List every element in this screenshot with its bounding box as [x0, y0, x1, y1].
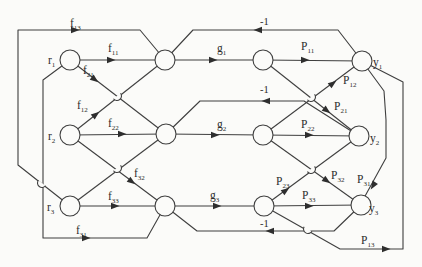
label-f22: f22	[108, 117, 119, 132]
arrowhead-g1	[209, 57, 218, 63]
arrowhead-p33	[305, 203, 314, 209]
label-p13: P13	[361, 234, 375, 249]
arrowhead-g2	[211, 132, 220, 138]
arrowhead-feedback-2	[262, 98, 271, 104]
arrowhead-feedback-1	[254, 27, 263, 33]
label-y1: y1	[373, 56, 383, 71]
label-f32: f32	[134, 167, 145, 182]
node-t1	[253, 50, 273, 70]
node-y1	[352, 51, 372, 71]
label-minus1-top: -1	[260, 16, 269, 27]
label-p32: P32	[331, 169, 345, 184]
label-y2: y2	[370, 132, 380, 147]
label-p31: P31	[357, 173, 371, 188]
node-y2	[349, 126, 369, 146]
label-f11: f11	[108, 42, 119, 57]
label-p23: P23	[276, 175, 290, 190]
label-p12: P12	[343, 74, 357, 89]
label-r1: r1	[48, 54, 56, 69]
label-f33: f33	[108, 190, 119, 205]
signal-flow-graph-figure: r1 r2 r3 y1 y2 y3 f13 f11 f21 f12 f22 f3…	[0, 0, 422, 267]
nodes	[60, 50, 372, 216]
label-f31: f31	[76, 224, 87, 239]
arrowhead-p22	[305, 132, 314, 138]
label-y3: y3	[369, 202, 379, 217]
node-t3	[254, 196, 274, 216]
label-p22: P22	[301, 118, 315, 133]
edge-p11	[263, 60, 362, 61]
node-t2	[253, 125, 273, 145]
hop-p13-over-feedback3	[302, 227, 312, 235]
label-p33: P33	[302, 189, 316, 204]
hop-f13-over-f31	[36, 180, 46, 189]
label-minus1-bot: -1	[260, 218, 269, 229]
label-p11: P11	[301, 40, 315, 55]
node-r3	[60, 196, 80, 216]
node-y3	[351, 195, 371, 215]
label-minus1-mid: -1	[260, 84, 269, 95]
label-g3: g3	[210, 189, 220, 204]
label-g1: g1	[217, 42, 227, 57]
node-r2	[60, 125, 80, 145]
node-sum1	[155, 50, 175, 70]
label-p21: P21	[334, 100, 348, 115]
label-r3: r3	[47, 201, 55, 216]
arrowhead-f22	[118, 131, 127, 137]
label-f12: f12	[77, 99, 88, 114]
node-sum2	[156, 124, 176, 144]
arrowhead-p11	[301, 57, 310, 63]
node-sum3	[155, 196, 175, 216]
label-g2: g2	[217, 118, 227, 133]
node-r1	[60, 50, 80, 70]
crossing-hops	[36, 93, 318, 235]
label-f21: f21	[83, 64, 94, 79]
label-r2: r2	[48, 130, 56, 145]
sfg-canvas: r1 r2 r3 y1 y2 y3 f13 f11 f21 f12 f22 f3…	[0, 0, 422, 267]
arrowhead-f11	[107, 57, 116, 63]
arrowhead-g3	[213, 203, 222, 209]
arrowhead-p13	[382, 246, 391, 252]
labels: r1 r2 r3 y1 y2 y3 f13 f11 f21 f12 f22 f3…	[47, 16, 383, 249]
